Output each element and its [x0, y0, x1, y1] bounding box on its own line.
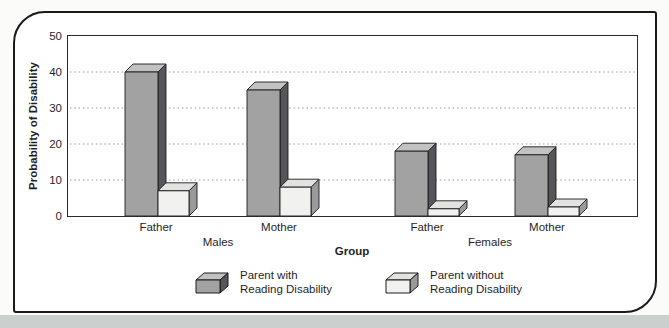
y-tick-label: 10 [34, 173, 62, 187]
legend-swatch-with-rd-icon [195, 270, 233, 294]
legend-label-line: Reading Disability [430, 283, 522, 297]
y-tick-label: 30 [34, 101, 62, 115]
bars-canvas [68, 36, 637, 216]
y-tick-label: 20 [34, 137, 62, 151]
x-tick-label: Father [392, 221, 462, 233]
legend-label-without-rd: Parent without Reading Disability [430, 269, 522, 296]
bar-without-rd-0-front [158, 191, 189, 216]
bar-with-rd-3-front [515, 155, 548, 216]
legend-label-line: Parent without [430, 269, 522, 283]
y-tick-label: 50 [34, 29, 62, 43]
bar-with-rd-1-front [247, 90, 280, 216]
bar-without-rd-1-front [280, 187, 311, 216]
legend-label-with-rd: Parent with Reading Disability [240, 269, 332, 296]
x-axis-title: Group [335, 245, 370, 257]
x-tick-label: Father [121, 221, 191, 233]
bar-without-rd-2-front [428, 209, 459, 216]
y-tick-label: 40 [34, 65, 62, 79]
bar-with-rd-2-front [395, 151, 428, 216]
legend-label-line: Reading Disability [240, 283, 332, 297]
group-label-males: Males [178, 236, 258, 248]
bar-without-rd-3-front [548, 207, 579, 216]
page-edge-strip [0, 315, 669, 328]
x-tick-label: Mother [244, 221, 314, 233]
legend-label-line: Parent with [240, 269, 332, 283]
legend-swatch-without-rd-icon [385, 270, 423, 294]
y-axis-title: Probability of Disability [27, 62, 39, 190]
x-tick-label: Mother [512, 221, 582, 233]
legend-item-without-rd: Parent without Reading Disability [385, 269, 522, 296]
group-label-females: Females [450, 236, 530, 248]
y-tick-label: 0 [34, 209, 62, 223]
bar-with-rd-0-front [125, 72, 158, 216]
legend-item-with-rd: Parent with Reading Disability [195, 269, 332, 296]
plot-area [67, 35, 638, 217]
figure-page: Probability of Disability 01020304050 Fa… [0, 0, 669, 328]
